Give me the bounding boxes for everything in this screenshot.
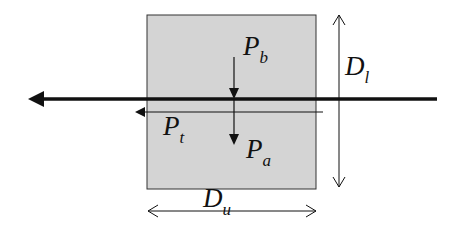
label-pt: Pt	[163, 113, 184, 146]
label-pb: Pb	[243, 33, 268, 66]
thick-arrowhead-icon	[28, 91, 44, 107]
label-du: Du	[203, 185, 231, 218]
thin-arrowhead-icon	[135, 107, 145, 117]
label-pa: Pa	[246, 136, 271, 169]
gray-block	[147, 15, 316, 189]
label-dl: Dl	[345, 53, 369, 86]
